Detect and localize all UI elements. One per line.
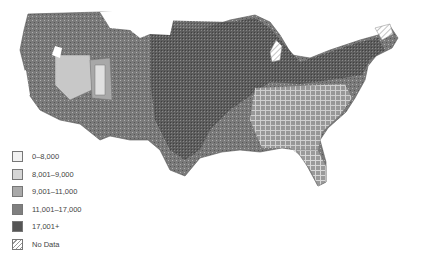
legend-swatch: [12, 204, 23, 215]
legend-swatch: [12, 151, 23, 162]
legend-label: No Data: [32, 240, 60, 249]
legend-label: 17,001+: [32, 222, 59, 231]
legend-swatch: [12, 169, 23, 180]
legend-label: 11,001–17,000: [32, 205, 82, 214]
legend-swatch: [12, 186, 23, 197]
map-legend: 0–8,000 8,001–9,000 9,001–11,000 11,001–…: [12, 148, 82, 253]
legend-item: 0–8,000: [12, 148, 82, 166]
legend-swatch: [12, 221, 23, 232]
legend-swatch-hatched: [12, 239, 23, 250]
legend-item: 9,001–11,000: [12, 183, 82, 201]
legend-item: 11,001–17,000: [12, 201, 82, 219]
legend-label: 8,001–9,000: [32, 170, 74, 179]
legend-item: 17,001+: [12, 218, 82, 236]
legend-item: No Data: [12, 236, 82, 254]
legend-label: 0–8,000: [32, 152, 59, 161]
legend-label: 9,001–11,000: [32, 187, 77, 196]
legend-item: 8,001–9,000: [12, 166, 82, 184]
